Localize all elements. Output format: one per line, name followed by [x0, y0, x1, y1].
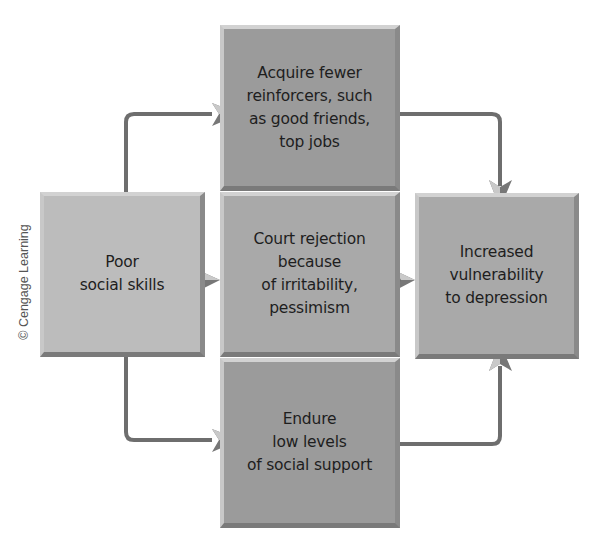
arrow-bottom-to-outcome: [398, 366, 500, 444]
arrow-cause-to-top: [126, 114, 212, 192]
node-increased-vulnerability: Increased vulnerability to depression: [415, 193, 579, 359]
node-poor-social-skills: Poor social skills: [40, 192, 205, 357]
copyright-notice: © Cengage Learning: [17, 207, 31, 357]
node-court-rejection: Court rejection because of irritability,…: [220, 192, 400, 357]
arrow-top-to-outcome: [398, 114, 500, 186]
node-acquire-fewer-reinforcers: Acquire fewer reinforcers, such as good …: [220, 25, 400, 191]
node-endure-low-support: Endure low levels of social support: [220, 358, 400, 528]
node-label: Endure low levels of social support: [247, 408, 372, 477]
node-label: Increased vulnerability to depression: [445, 241, 547, 310]
arrow-cause-to-bottom: [126, 355, 212, 440]
node-label: Poor social skills: [80, 251, 165, 297]
node-label: Acquire fewer reinforcers, such as good …: [247, 62, 373, 154]
node-label: Court rejection because of irritability,…: [253, 228, 365, 320]
